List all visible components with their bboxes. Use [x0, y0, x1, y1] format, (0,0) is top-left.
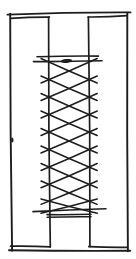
left-wall-top-edge	[11, 17, 50, 18]
right-wall-top-edge	[88, 16, 127, 17]
ink-blob-2	[11, 137, 13, 142]
bottom-rail-1	[33, 209, 106, 212]
left-wall-bottom-edge	[11, 246, 51, 247]
sketch-figure	[0, 0, 136, 259]
outer-frame-bottom-edge	[9, 250, 130, 251]
ink-blob-1	[61, 59, 72, 64]
top-rail-1	[37, 56, 99, 57]
outer-frame-right-edge	[127, 13, 128, 252]
right-wall-bottom-edge	[89, 247, 128, 248]
outer-frame-left-edge	[10, 14, 12, 251]
outer-frame-top-edge	[8, 12, 131, 14]
spring-lattice-drawing	[0, 0, 136, 259]
